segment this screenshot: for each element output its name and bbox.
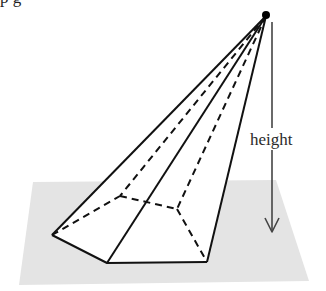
height-label: height [250, 130, 293, 149]
apex-point [262, 11, 270, 19]
